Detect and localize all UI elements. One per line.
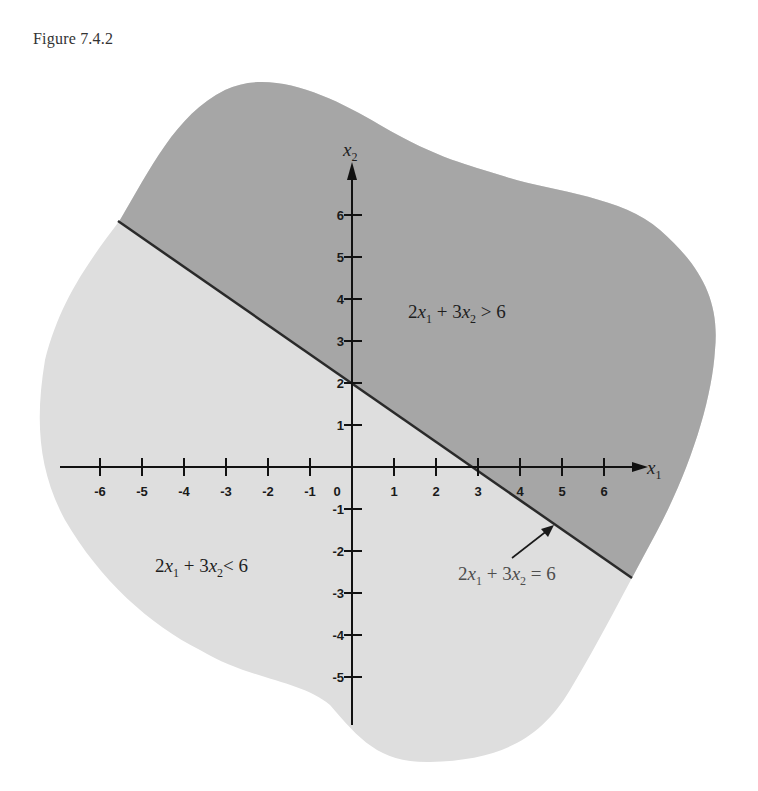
y-tick-label: 1 bbox=[337, 418, 344, 433]
y-tick-label: 4 bbox=[337, 292, 345, 307]
x-tick-label: 3 bbox=[474, 484, 481, 499]
y-tick-label: 2 bbox=[337, 376, 344, 391]
x-tick-label: -4 bbox=[178, 484, 190, 499]
y-tick-label: 6 bbox=[337, 208, 344, 223]
y-tick-label: -2 bbox=[332, 544, 344, 559]
y-tick-label: 5 bbox=[337, 250, 344, 265]
inequality-diagram: -6 -5 -4 -3 -2 -1 0 1 2 3 4 5 6 6 5 4 3 … bbox=[0, 0, 758, 791]
x-tick-label: -5 bbox=[136, 484, 148, 499]
y-tick-label: 3 bbox=[337, 334, 344, 349]
y-tick-label: -4 bbox=[332, 628, 344, 643]
y-tick-label: -3 bbox=[332, 586, 344, 601]
x-tick-label: 4 bbox=[516, 484, 524, 499]
x-tick-label: -2 bbox=[262, 484, 274, 499]
origin-label: 0 bbox=[333, 484, 340, 499]
y-tick-label: -1 bbox=[332, 502, 344, 517]
x-tick-label: 5 bbox=[558, 484, 565, 499]
x-tick-label: -6 bbox=[94, 484, 106, 499]
x-tick-label: 6 bbox=[600, 484, 607, 499]
x-tick-label: -1 bbox=[304, 484, 316, 499]
shaded-blob bbox=[0, 0, 758, 791]
x-tick-label: 1 bbox=[390, 484, 397, 499]
x-tick-label: -3 bbox=[220, 484, 232, 499]
y-tick-label: -5 bbox=[332, 670, 344, 685]
x-tick-label: 2 bbox=[432, 484, 439, 499]
